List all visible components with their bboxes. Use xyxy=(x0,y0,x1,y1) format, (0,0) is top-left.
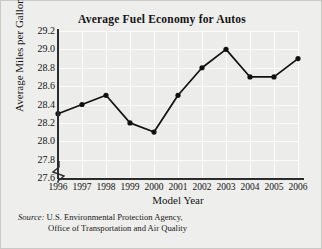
series-polyline xyxy=(58,49,298,132)
y-tick-label-28.6: 28.6 xyxy=(29,81,55,91)
plot-area xyxy=(58,31,298,178)
data-point-2006 xyxy=(295,56,300,61)
data-point-1997 xyxy=(79,102,84,107)
source-agency: U.S. Environmental Protection Agency, xyxy=(47,212,183,222)
x-axis-line xyxy=(58,178,304,180)
data-point-2004 xyxy=(247,74,252,79)
data-point-2002 xyxy=(199,65,204,70)
y-tick-label-29.0: 29.0 xyxy=(29,44,55,54)
x-tick-label-2006: 2006 xyxy=(281,182,315,193)
data-series-line xyxy=(58,31,298,178)
source-label: Source: xyxy=(18,212,44,222)
y-axis-line xyxy=(57,29,59,179)
gridline-v-2006 xyxy=(298,31,299,178)
data-point-1998 xyxy=(103,93,108,98)
x-axis-title: Model Year xyxy=(58,194,298,206)
source-office: Office of Transportation and Air Quality xyxy=(18,223,308,234)
y-tick-label-28.0: 28.0 xyxy=(29,136,55,146)
chart-figure: Average Fuel Economy for Autos Average M… xyxy=(0,0,322,249)
y-tick-label-29.2: 29.2 xyxy=(29,26,55,36)
y-axis-title: Average Miles per Gallon xyxy=(13,0,25,125)
y-tick-label-28.8: 28.8 xyxy=(29,63,55,73)
data-point-1999 xyxy=(127,120,132,125)
y-tick-label-28.2: 28.2 xyxy=(29,118,55,128)
data-point-2000 xyxy=(151,129,156,134)
data-point-2003 xyxy=(223,47,228,52)
source-note: Source: U.S. Environmental Protection Ag… xyxy=(18,212,308,233)
y-axis-break-icon xyxy=(50,161,68,183)
y-tick-label-28.4: 28.4 xyxy=(29,100,55,110)
data-point-2001 xyxy=(175,93,180,98)
data-point-2005 xyxy=(271,74,276,79)
